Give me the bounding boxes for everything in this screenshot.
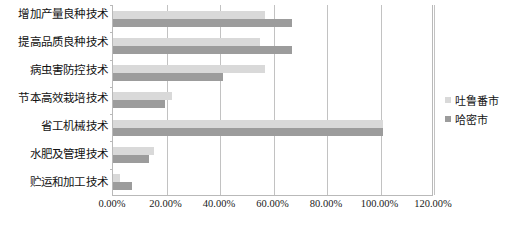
value-tick-label: 60.00%: [256, 198, 288, 209]
category-axis: 增加产量良种技术提高品质良种技术病虫害防控技术节本高效栽培技术省工机械技术水肥及…: [0, 0, 112, 196]
plot-area: [112, 5, 433, 196]
bar-1: [113, 19, 292, 27]
category-label: 增加产量良种技术: [0, 0, 112, 28]
category-tick: [110, 141, 113, 142]
bar-group: [113, 114, 433, 141]
bar-1: [113, 182, 132, 190]
category-tick: [110, 5, 113, 6]
category-label: 省工机械技术: [0, 112, 112, 140]
category-tick: [110, 87, 113, 88]
category-tick: [110, 32, 113, 33]
bar-0: [113, 120, 383, 128]
gridline: [434, 5, 435, 195]
value-tick-label: 0.00%: [98, 198, 125, 209]
value-axis: 0.00%20.00%40.00%60.00%80.00%100.00%120.…: [112, 198, 433, 218]
legend-swatch-icon: [445, 116, 451, 122]
category-label: 节本高效栽培技术: [0, 84, 112, 112]
bar-group: [113, 169, 433, 196]
legend-swatch-icon: [445, 97, 451, 103]
value-tick-label: 100.00%: [361, 198, 399, 209]
bar-1: [113, 100, 165, 108]
bar-0: [113, 174, 120, 182]
bar-0: [113, 65, 265, 73]
bar-1: [113, 46, 292, 54]
legend-item[interactable]: 吐鲁番市: [445, 92, 499, 108]
value-tick-label: 20.00%: [149, 198, 181, 209]
legend-label: 哈密市: [455, 111, 488, 127]
bar-1: [113, 73, 223, 81]
category-label: 病虫害防控技术: [0, 56, 112, 84]
bar-1: [113, 128, 383, 136]
value-tick-label: 80.00%: [310, 198, 342, 209]
bar-0: [113, 147, 154, 155]
bar-0: [113, 38, 260, 46]
bar-group: [113, 87, 433, 114]
category-label: 水肥及管理技术: [0, 140, 112, 168]
horizontal-bar-chart: 增加产量良种技术提高品质良种技术病虫害防控技术节本高效栽培技术省工机械技术水肥及…: [0, 0, 518, 228]
bar-group: [113, 141, 433, 168]
bar-group: [113, 32, 433, 59]
chart-legend: 吐鲁番市哈密市: [445, 92, 499, 127]
value-tick-label: 120.00%: [414, 198, 452, 209]
bar-0: [113, 92, 172, 100]
bar-group: [113, 60, 433, 87]
category-tick: [110, 169, 113, 170]
category-tick: [110, 114, 113, 115]
bar-0: [113, 11, 265, 19]
category-tick: [110, 60, 113, 61]
category-label: 贮运和加工技术: [0, 168, 112, 196]
legend-label: 吐鲁番市: [455, 92, 499, 108]
bars-layer: [113, 5, 433, 195]
legend-item[interactable]: 哈密市: [445, 111, 499, 127]
bar-1: [113, 155, 149, 163]
bar-group: [113, 5, 433, 32]
value-tick-label: 40.00%: [203, 198, 235, 209]
category-label: 提高品质良种技术: [0, 28, 112, 56]
